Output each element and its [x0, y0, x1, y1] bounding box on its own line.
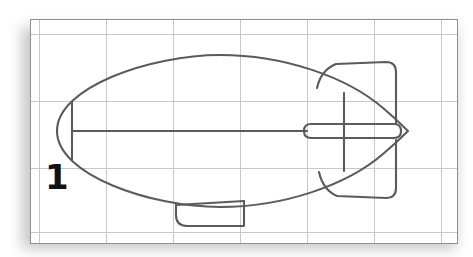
horizontal-stabilizer — [304, 124, 401, 138]
screenshot-root: 1 — [0, 0, 473, 257]
airship-drawing — [31, 20, 457, 243]
upper-tail-fin — [317, 62, 396, 124]
graph-paper-page: 1 — [30, 19, 458, 244]
lower-tail-fin — [319, 140, 396, 198]
